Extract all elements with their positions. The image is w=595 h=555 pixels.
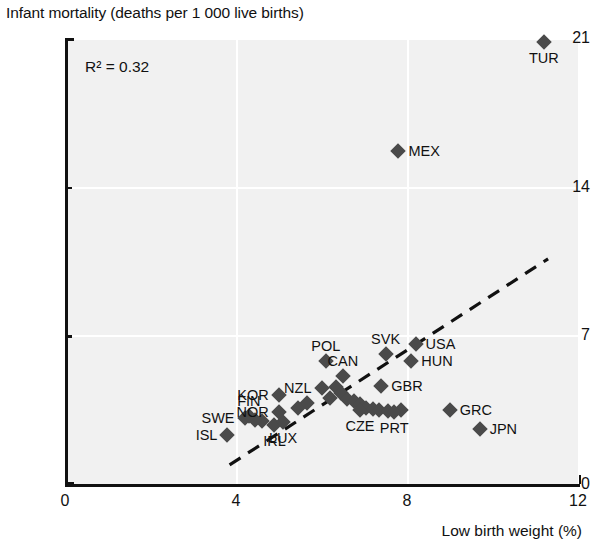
x-axis-title: Low birth weight (%) [442,522,582,540]
gridline-horizontal [65,187,578,189]
chart-title: Infant mortality (deaths per 1 000 live … [6,4,304,22]
y-axis-line [65,38,68,484]
y-tick-label: 0 [534,475,590,493]
point-label-can: CAN [328,353,359,369]
gridline-vertical [407,38,409,484]
y-axis-tick [65,187,72,190]
point-label-lux: LUX [269,430,297,446]
point-label-nor: NOR [237,404,269,420]
gridline-horizontal [65,38,578,40]
point-label-grc: GRC [460,402,492,418]
point-label-mex: MEX [408,143,439,159]
y-tick-label: 14 [534,178,590,196]
y-axis-cap [65,482,74,485]
point-label-usa: USA [426,336,456,352]
point-label-kor: KOR [237,387,268,403]
x-tick-label: 12 [558,492,595,510]
plot-area [65,38,578,484]
x-tick-label: 4 [216,492,256,510]
point-label-prt: PRT [380,420,409,436]
point-label-swe: SWE [202,410,235,426]
point-label-nzl: NZL [284,380,311,396]
point-label-hun: HUN [421,353,452,369]
point-label-svk: SVK [371,331,400,347]
r2-text: R² = 0.32 [85,58,149,75]
r2-annotation: R² = 0.32 [85,58,149,76]
y-tick-label: 7 [534,326,590,344]
x-axis-cap [579,475,582,484]
point-label-tur: TUR [529,50,559,66]
point-label-isl: ISL [196,427,218,443]
x-axis-line [65,484,580,487]
y-axis-tick [65,335,72,338]
point-label-gbr: GBR [391,378,422,394]
point-label-jpn: JPN [490,421,517,437]
y-axis-cap [65,38,74,41]
y-tick-label: 21 [534,29,590,47]
x-tick-label: 8 [387,492,427,510]
x-tick-label: 0 [45,492,85,510]
point-label-cze: CZE [345,418,374,434]
point-label-pol: POL [311,338,340,354]
